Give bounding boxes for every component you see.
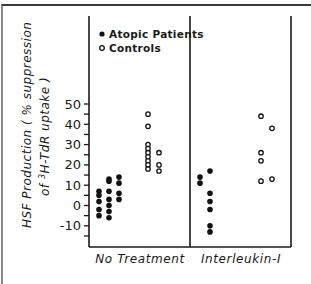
legend: Atopic Patients Controls — [99, 28, 203, 54]
atopic-patient-point — [207, 199, 213, 205]
y-axis-label-line1: HSF Production ( % suppression — [20, 22, 34, 228]
y-axis-label: HSF Production ( % suppression of 3H-TdR… — [20, 22, 52, 228]
atopic-patient-point — [207, 207, 213, 213]
atopic-patient-point — [116, 180, 122, 186]
atopic-patient-point — [116, 174, 122, 180]
atopic-patient-point — [106, 209, 112, 215]
atopic-patient-point — [96, 213, 102, 219]
legend-filled-circle-icon — [99, 31, 104, 36]
y-tick-label: 20 — [64, 157, 81, 172]
y-tick-label: -10 — [60, 218, 81, 233]
atopic-patient-point — [207, 191, 213, 197]
y-tick-label: 10 — [64, 178, 81, 193]
y-tick-label: 50 — [64, 97, 81, 112]
atopic-patient-point — [96, 199, 102, 205]
control-point — [146, 124, 150, 128]
category-label-no-treatment: No Treatment — [95, 252, 185, 266]
legend-label-atopic: Atopic Patients — [109, 28, 204, 40]
atopic-patient-point — [197, 180, 203, 186]
control-point — [146, 167, 150, 171]
atopic-patient-point — [116, 191, 122, 197]
control-point — [146, 112, 150, 116]
atopic-patient-point — [207, 229, 213, 235]
atopic-patient-point — [197, 174, 203, 180]
atopic-patient-point — [96, 207, 102, 213]
y-tick-label: 0 — [73, 198, 81, 213]
control-point — [157, 169, 161, 173]
control-point — [157, 163, 161, 167]
y-tick-label: 30 — [64, 137, 81, 152]
legend-open-circle-icon — [100, 46, 105, 51]
legend-label-controls: Controls — [109, 42, 161, 54]
atopic-patient-point — [207, 223, 213, 229]
atopic-patient-point — [207, 168, 213, 174]
y-axis-label-line2: of 3H-TdR uptake ) — [38, 77, 52, 196]
control-point — [259, 159, 263, 163]
control-point — [259, 179, 263, 183]
atopic-patient-point — [96, 193, 102, 199]
category-labels: No Treatment Interleukin-I — [95, 252, 281, 266]
control-point — [259, 114, 263, 118]
atopic-patient-point — [106, 203, 112, 209]
data-points — [96, 112, 274, 235]
atopic-patient-point — [116, 197, 122, 203]
atopic-patient-point — [106, 197, 112, 203]
atopic-patient-point — [106, 188, 112, 194]
category-label-interleukin: Interleukin-I — [201, 252, 281, 266]
control-point — [270, 126, 274, 130]
atopic-patient-point — [106, 178, 112, 184]
atopic-patient-point — [106, 215, 112, 221]
control-point — [157, 151, 161, 155]
y-tick-label: 40 — [64, 117, 81, 132]
control-point — [259, 151, 263, 155]
y-axis-ticks: 50403020100-10 — [60, 97, 89, 236]
control-point — [270, 177, 274, 181]
